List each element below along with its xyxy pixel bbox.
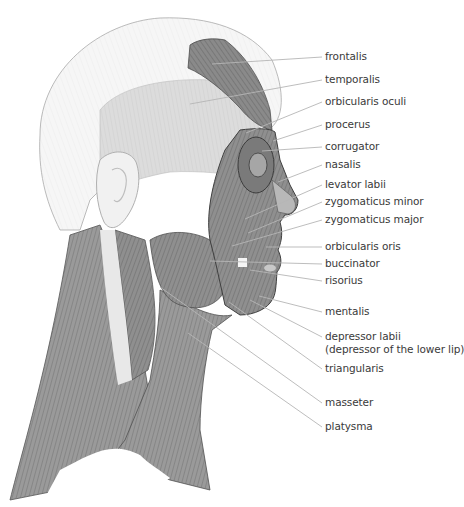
lower-lip bbox=[264, 265, 276, 272]
label-depressor-labii: depressor labii (depressor of the lower … bbox=[325, 330, 464, 356]
label-depressor-labii-title: depressor labii bbox=[325, 330, 464, 343]
label-depressor-labii-subtitle: (depressor of the lower lip) bbox=[325, 343, 464, 356]
label-temporalis: temporalis bbox=[325, 73, 380, 86]
label-masseter: masseter bbox=[325, 396, 373, 409]
label-triangularis: triangularis bbox=[325, 362, 384, 375]
label-zygomaticus-major: zygomaticus major bbox=[325, 213, 423, 226]
label-risorius: risorius bbox=[325, 274, 363, 287]
label-zygomaticus-minor: zygomaticus minor bbox=[325, 195, 424, 208]
modiolus-highlight bbox=[238, 258, 247, 267]
label-orbicularis-oris: orbicularis oris bbox=[325, 240, 401, 253]
eye bbox=[249, 153, 267, 177]
label-levator-labii: levator labii bbox=[325, 178, 386, 191]
ear bbox=[97, 152, 139, 228]
label-frontalis: frontalis bbox=[325, 50, 367, 63]
label-mentalis: mentalis bbox=[325, 305, 369, 318]
label-procerus: procerus bbox=[325, 118, 370, 131]
label-buccinator: buccinator bbox=[325, 257, 380, 270]
label-orbicularis-oculi: orbicularis oculi bbox=[325, 95, 406, 108]
label-nasalis: nasalis bbox=[325, 158, 361, 171]
label-corrugator: corrugator bbox=[325, 140, 379, 153]
label-platysma: platysma bbox=[325, 420, 373, 433]
